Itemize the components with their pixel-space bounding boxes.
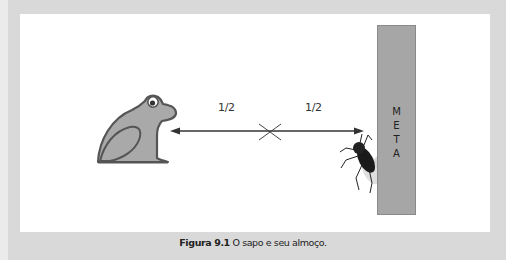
goal-letter: M	[378, 105, 415, 119]
figure-caption: Figura 9.1 O sapo e seu almoço.	[0, 237, 506, 248]
distance-label-right: 1/2	[305, 101, 322, 114]
goal-letter: A	[378, 147, 415, 161]
frog-icon	[98, 96, 176, 163]
midpoint-x-icon	[259, 124, 281, 140]
goal-bar: M E T A	[377, 25, 416, 215]
distance-label-left: 1/2	[218, 101, 235, 114]
diagram-canvas	[0, 0, 506, 260]
caption-text: O sapo e seu almoço.	[230, 237, 327, 248]
caption-label: Figura 9.1	[179, 237, 230, 248]
goal-label: M E T A	[378, 105, 415, 161]
distance-arrow	[170, 128, 364, 135]
goal-letter: E	[378, 119, 415, 133]
goal-letter: T	[378, 133, 415, 147]
